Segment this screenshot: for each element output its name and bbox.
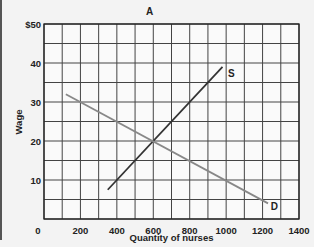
- x-tick-label: 1000: [216, 225, 237, 236]
- y-tick-label: $50: [25, 19, 41, 30]
- demand-label: D: [271, 201, 278, 212]
- y-axis-label: Wage: [13, 110, 24, 135]
- supply-label: S: [228, 68, 235, 79]
- supply-demand-chart: SDA020040060080010001200140010203040$50Q…: [0, 0, 314, 247]
- x-tick-label: 400: [109, 225, 125, 236]
- x-tick-label: 1200: [252, 225, 273, 236]
- y-tick-label: 30: [30, 97, 41, 108]
- y-tick-label: 10: [30, 175, 41, 186]
- x-axis-label: Quantity of nurses: [130, 232, 214, 243]
- x-tick-label: 200: [72, 225, 88, 236]
- x-tick-label: 0: [35, 225, 40, 236]
- y-tick-label: 40: [30, 58, 41, 69]
- chart-title: A: [146, 6, 153, 17]
- y-tick-label: 20: [30, 136, 41, 147]
- x-tick-label: 1400: [288, 225, 309, 236]
